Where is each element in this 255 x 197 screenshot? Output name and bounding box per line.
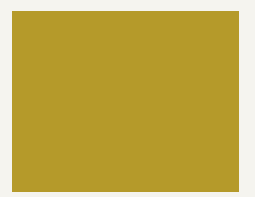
gold-lattice-molecule-illustration — [12, 11, 239, 192]
molecule-on-gold-figure — [12, 11, 239, 192]
